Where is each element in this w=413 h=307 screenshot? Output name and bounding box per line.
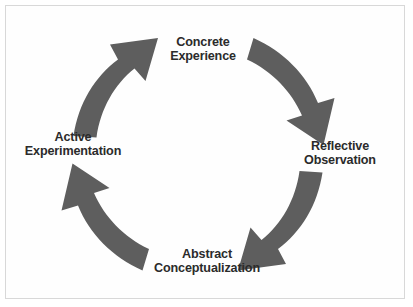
node-label-line1: Concrete: [176, 35, 229, 49]
node-label-line2: Experimentation: [6, 144, 140, 158]
node-label-abstract-conceptualization: Abstract Conceptualization: [140, 247, 274, 276]
node-label-reflective-observation: Reflective Observation: [274, 139, 406, 168]
node-label-line2: Observation: [274, 153, 406, 167]
node-label-line1: Abstract: [182, 247, 232, 261]
node-label-active-experimentation: Active Experimentation: [6, 130, 140, 159]
arrow-bottom-left: [62, 164, 150, 271]
node-label-line2: Experience: [140, 49, 266, 63]
node-label-concrete-experience: Concrete Experience: [140, 35, 266, 64]
diagram-canvas: Concrete Experience Reflective Observati…: [0, 0, 413, 307]
node-label-line2: Conceptualization: [140, 261, 274, 275]
node-label-line1: Reflective: [311, 139, 369, 153]
node-label-line1: Active: [55, 130, 92, 144]
